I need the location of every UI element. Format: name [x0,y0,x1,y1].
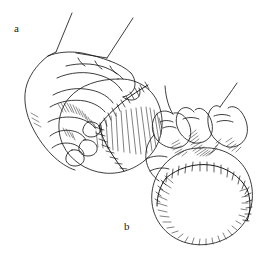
panel-label-b: b [124,221,130,232]
panel-label-a: a [14,23,19,34]
figure-container: a b [0,0,263,254]
baseball-grip-illustration [0,0,263,254]
figure-background [0,0,263,254]
